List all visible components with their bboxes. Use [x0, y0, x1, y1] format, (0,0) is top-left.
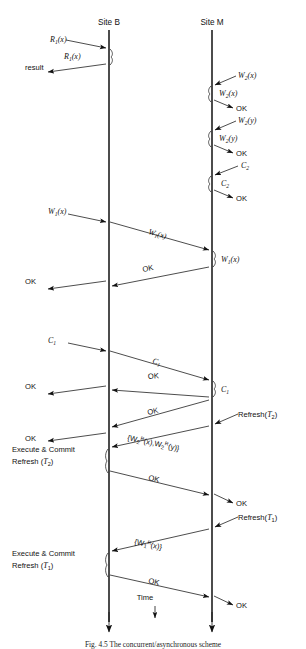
label-c1-in: C1 — [48, 336, 56, 346]
arrow-c2-in — [215, 166, 238, 175]
arrow-w2y-in — [215, 121, 236, 130]
label-c2-self: C2 — [221, 179, 229, 189]
label-ok-left-1: OK — [25, 277, 36, 286]
brace-r1x-self — [110, 49, 112, 65]
label-w2y-in: W2(y) — [238, 116, 257, 126]
label-ok-right-5: OK — [236, 601, 247, 610]
label-refresh-t1-payload: {W1R(x)} — [133, 536, 163, 552]
label-c2-in: C2 — [241, 161, 249, 171]
label-ok-3: OK — [236, 194, 247, 203]
label-ok-right-4: OK — [236, 499, 247, 508]
block-label-t2-line1: Execute & Commit — [12, 445, 76, 454]
lifeline-label-site-m: Site M — [200, 18, 223, 27]
lifeline-label-site-b: Site B — [98, 18, 120, 27]
label-w2y-self: W2(y) — [219, 134, 238, 144]
arrow-w1x-in — [68, 214, 106, 222]
arrow-w1x-ok-m-to-b — [112, 267, 209, 286]
brace-execute-commit-t2 — [106, 449, 108, 473]
label-ok-left-2: OK — [25, 382, 36, 391]
brace-execute-commit-t1 — [106, 553, 108, 577]
figure-caption: Fig. 4.5 The concurrent/asynchronous sch… — [85, 640, 222, 649]
label-ok-transit-1: OK — [142, 263, 154, 274]
arrow-w1x-ok-out — [48, 281, 106, 289]
label-ok-1: OK — [236, 104, 247, 113]
label-r1x-self: R1(x) — [63, 52, 81, 62]
arrow-w2x-ok — [214, 100, 233, 108]
arrow-ok-m-to-b-2 — [112, 400, 209, 427]
arrow-w2x-in — [215, 76, 236, 85]
time-axis-label: Time — [137, 593, 154, 602]
sequence-diagram: Site B Site M — [0, 0, 306, 649]
block-label-t2-line2: Refresh (T2) — [12, 457, 54, 467]
label-w2x-self: W2(x) — [219, 89, 238, 99]
label-ok-transit-2: OK — [148, 371, 160, 381]
arrow-c1-in — [68, 343, 106, 351]
arrow-c2-ok — [214, 190, 233, 198]
arrow-refresh-t1-in — [215, 517, 238, 527]
label-ok-transit-5: OK — [148, 576, 161, 587]
arrow-refresh-t2-ok-out — [214, 494, 233, 503]
label-refresh-t2-payload: {W2R(x),W2R(y)} — [126, 432, 180, 453]
figure-canvas: Site B Site M — [0, 0, 306, 649]
label-c1-self: C1 — [221, 385, 229, 395]
label-w1x-in: W1(x) — [48, 207, 67, 217]
label-ok-transit-3: OK — [146, 406, 159, 417]
arrow-w2y-ok — [214, 145, 233, 153]
arrow-c1-ok-out — [48, 386, 106, 394]
brace-w1x-self — [213, 251, 215, 267]
label-ok-2: OK — [236, 149, 247, 158]
label-ok-left-3: OK — [25, 434, 36, 443]
label-refresh-t1: Refresh(T1) — [238, 513, 278, 523]
label-w1x-self: W1(x) — [221, 255, 240, 265]
brace-c2-self — [209, 176, 211, 192]
block-label-t1-line2: Refresh (T1) — [12, 561, 54, 571]
arrow-c1-ok-m-to-b — [112, 390, 209, 397]
label-w2x-in: W2(x) — [238, 71, 257, 81]
brace-c1-self — [213, 381, 215, 397]
label-c1-transit: C1 — [151, 356, 162, 368]
block-label-execute-commit-t1: Execute & Commit Refresh (T1) — [12, 549, 76, 571]
label-result: result — [25, 63, 44, 72]
arrow-refresh-t2-in — [215, 414, 238, 424]
block-label-execute-commit-t2: Execute & Commit Refresh (T2) — [12, 445, 76, 467]
arrow-result-out — [48, 64, 106, 72]
brace-w2x-self — [209, 86, 211, 102]
label-ok-transit-4: OK — [148, 473, 161, 484]
arrow-ok-out-2 — [48, 433, 106, 441]
block-label-t1-line1: Execute & Commit — [12, 549, 76, 558]
label-r1x-in: R1(x) — [49, 35, 67, 45]
arrow-refresh-t1-ok-out — [214, 596, 233, 605]
brace-w2y-self — [209, 131, 211, 147]
arrow-r1x-in — [66, 40, 106, 48]
label-w1x-transit: W1(x) — [147, 227, 168, 242]
label-refresh-t2: Refresh(T2) — [238, 410, 278, 420]
